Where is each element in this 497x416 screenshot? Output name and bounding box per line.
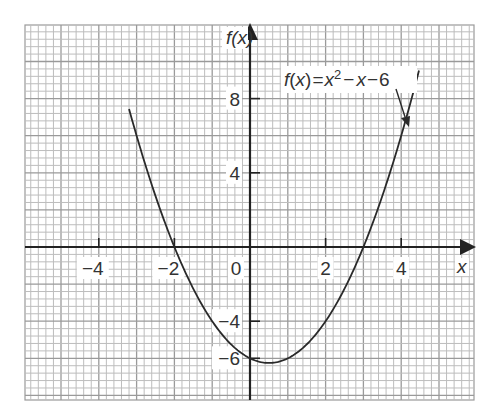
x-axis-label: x [456, 256, 468, 277]
x-tick-label: 0 [231, 258, 242, 279]
eq-x-linear: x [355, 69, 367, 90]
eq-minus: − [343, 69, 354, 90]
x-tick-label: −4 [82, 258, 104, 279]
x-tick-label: 2 [320, 258, 331, 279]
eq-minus: − [367, 69, 378, 90]
y-tick-label: 8 [229, 89, 240, 110]
eq-exponent: 2 [334, 67, 341, 82]
eq-close: ) [305, 69, 311, 90]
eq-equals: = [312, 69, 323, 90]
eq-constant: 6 [379, 69, 390, 90]
y-axis-label: f(x) [226, 27, 253, 48]
x-tick-label: 4 [396, 258, 407, 279]
y-tick-label: −4 [218, 311, 240, 332]
y-tick-label: 4 [229, 163, 240, 184]
function-graph: −4−202484−4−6 f(x) x f(x)=x2−x−6 [0, 0, 497, 416]
y-tick-label: −6 [218, 348, 240, 369]
x-tick-label: −2 [158, 258, 180, 279]
